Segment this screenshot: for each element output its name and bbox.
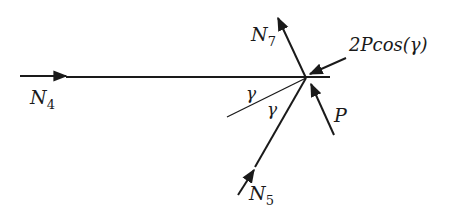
n7-arrow (278, 18, 306, 78)
force-2pcos-label: 2Pcos(γ) (348, 34, 428, 55)
force-diagram: N4 N7 N5 2Pcos(γ) P γ γ (0, 0, 452, 217)
force-p-arrow (311, 84, 334, 135)
gamma-upper-label: γ (246, 83, 257, 103)
n5-member (255, 78, 306, 167)
force-2pcos-arrow (310, 58, 346, 74)
gamma-lower-label: γ (267, 99, 278, 119)
force-p-label: P (333, 104, 348, 126)
n7-label: N7 (250, 23, 276, 49)
n4-label: N4 (29, 86, 55, 112)
n5-label: N5 (248, 182, 274, 208)
